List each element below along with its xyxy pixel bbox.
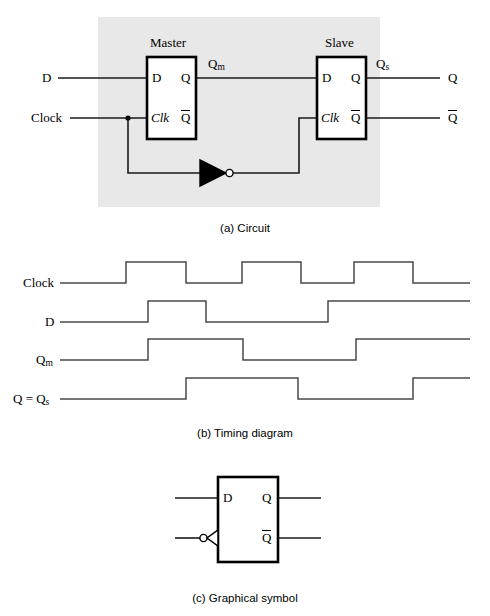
timing-label-q-qs-sub: s xyxy=(46,397,50,407)
waveform-q-qs xyxy=(60,378,470,399)
figure-master-slave-d-flip-flop: Master Slave D Clock D Q Clk Q D Q Clk Q… xyxy=(0,0,490,616)
master-pin-q: Q xyxy=(181,71,190,84)
caption-b: (b) Timing diagram xyxy=(0,427,490,439)
waveform-clock xyxy=(60,262,470,283)
timing-label-clock: Clock xyxy=(23,276,54,289)
node-label-qs: Qs xyxy=(376,57,389,73)
timing-label-qm-base: Q xyxy=(36,352,45,367)
master-pin-qbar: Q xyxy=(181,111,190,124)
circuit-output-q: Q xyxy=(448,71,457,84)
symbol-pin-d: D xyxy=(223,491,232,504)
timing-label-d: D xyxy=(45,315,54,328)
circuit-output-qbar: Q xyxy=(448,111,457,124)
waveform-qm xyxy=(60,339,470,360)
symbol-pin-qbar-text: Q xyxy=(262,531,271,544)
timing-label-q-qs: Q = Qs xyxy=(13,392,49,408)
slave-pin-qbar: Q xyxy=(351,111,360,124)
node-label-qm-sub: m xyxy=(217,62,224,72)
circuit-input-d-label: D xyxy=(42,71,51,84)
slave-pin-clk: Clk xyxy=(321,111,339,124)
timing-label-qm-sub: m xyxy=(45,358,52,368)
slave-pin-qbar-text: Q xyxy=(351,111,360,124)
node-label-qs-base: Q xyxy=(376,56,385,71)
timing-label-qm: Qm xyxy=(36,353,53,369)
node-label-qm: Qm xyxy=(208,57,225,73)
figure-drawing-layer xyxy=(0,0,490,616)
caption-c: (c) Graphical symbol xyxy=(0,592,490,604)
node-label-qs-sub: s xyxy=(385,62,389,72)
slave-pin-d: D xyxy=(322,71,331,84)
slave-title: Slave xyxy=(325,36,354,49)
master-pin-d: D xyxy=(152,71,161,84)
symbol-pin-qbar: Q xyxy=(262,531,271,544)
caption-a: (a) Circuit xyxy=(0,222,490,234)
symbol-pin-q: Q xyxy=(262,491,271,504)
slave-pin-q: Q xyxy=(351,71,360,84)
symbol-clock-triangle-icon xyxy=(207,530,218,546)
master-pin-clk: Clk xyxy=(151,111,169,124)
inverter-bubble-icon xyxy=(226,169,233,176)
circuit-input-clock-label: Clock xyxy=(31,111,62,124)
circuit-output-qbar-text: Q xyxy=(448,111,457,124)
node-label-qm-base: Q xyxy=(208,56,217,71)
timing-label-q-qs-base: Q = Q xyxy=(13,391,46,406)
master-title: Master xyxy=(150,36,186,49)
master-pin-qbar-text: Q xyxy=(181,111,190,124)
waveform-d xyxy=(60,301,470,322)
